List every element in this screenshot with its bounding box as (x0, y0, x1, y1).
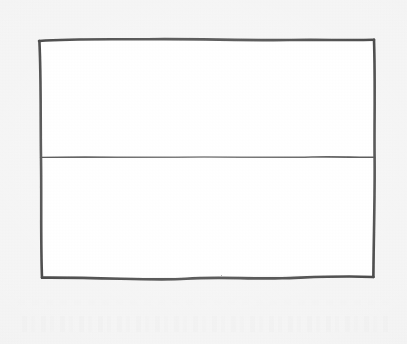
horizontal-divider-line (41, 157, 375, 158)
rectangle-bottom-edge (42, 276, 373, 279)
rectangle-right-edge (373, 40, 374, 277)
sketch-canvas (0, 0, 407, 344)
rectangle-left-edge (39, 41, 42, 278)
divided-rectangle-figure (0, 0, 407, 344)
rectangle-fill (40, 39, 374, 277)
